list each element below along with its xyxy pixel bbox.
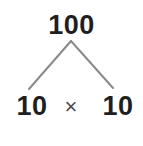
factor-tree-root-value: 100 [0, 10, 143, 40]
left-branch-line [29, 41, 71, 89]
factor-tree-left-factor: 10 [12, 91, 52, 121]
multiplication-sign-icon: × [53, 93, 89, 121]
factor-tree-figure: 100 10 × 10 [0, 0, 143, 146]
factor-tree-right-factor: 10 [98, 91, 138, 121]
factor-row: 10 × 10 [0, 91, 143, 123]
right-branch-line [71, 41, 113, 88]
